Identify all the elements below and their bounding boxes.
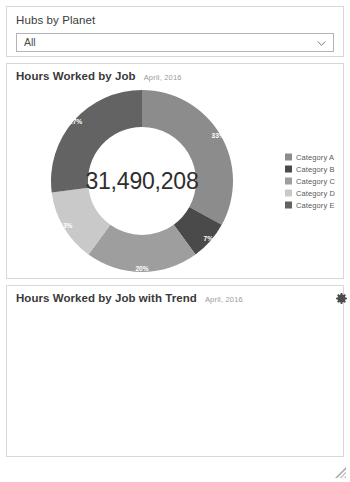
legend-swatch	[285, 166, 292, 173]
chevron-down-icon	[317, 39, 326, 48]
donut-chart[interactable]: 33%7%20%13%27%	[49, 88, 235, 274]
legend-swatch	[285, 190, 292, 197]
legend-label: Category A	[296, 153, 334, 162]
donut-slice-label: 27%	[69, 118, 82, 125]
donut-panel-header: Hours Worked by Job April, 2016	[7, 64, 343, 87]
trend-panel-header: Hours Worked by Job with Trend April, 20…	[7, 286, 343, 309]
donut-panel-subtitle: April, 2016	[144, 73, 182, 82]
donut-slice[interactable]	[142, 90, 233, 225]
gear-icon[interactable]	[334, 292, 349, 307]
legend-item[interactable]: Category E	[285, 201, 335, 210]
donut-slice-label: 33%	[212, 132, 225, 139]
select-selected-value: All	[24, 34, 36, 51]
donut-chart-area: 33%7%20%13%27% 31,490,208	[7, 87, 277, 275]
donut-panel-title: Hours Worked by Job	[16, 70, 136, 82]
hubs-by-planet-select[interactable]: All	[16, 33, 334, 52]
resize-grip-icon[interactable]	[334, 466, 347, 479]
filter-card: Hubs by Planet All	[6, 6, 344, 57]
legend-item[interactable]: Category D	[285, 189, 335, 198]
legend-swatch	[285, 178, 292, 185]
trend-chart-body	[7, 309, 343, 449]
legend-item[interactable]: Category B	[285, 165, 335, 174]
donut-chart-body: 33%7%20%13%27% 31,490,208 Category ACate…	[7, 87, 343, 275]
trend-panel-subtitle: April, 2016	[205, 295, 243, 304]
filter-label: Hubs by Planet	[16, 14, 334, 27]
donut-slice-label: 7%	[204, 235, 214, 242]
hours-worked-with-trend-panel: Hours Worked by Job with Trend April, 20…	[6, 285, 344, 457]
legend-label: Category D	[296, 189, 335, 198]
legend-item[interactable]: Category C	[285, 177, 335, 186]
donut-slice-label: 13%	[59, 222, 72, 229]
trend-panel-title: Hours Worked by Job with Trend	[16, 292, 197, 304]
legend-label: Category C	[296, 177, 335, 186]
legend-swatch	[285, 202, 292, 209]
dashboard-page: Hubs by Planet All Hours Worked by Job A…	[0, 0, 350, 482]
hours-worked-by-job-panel: Hours Worked by Job April, 2016 33%7%20%…	[6, 63, 344, 279]
legend-label: Category E	[296, 201, 335, 210]
donut-slice[interactable]	[51, 90, 142, 192]
donut-slice-label: 20%	[135, 265, 148, 272]
legend-item[interactable]: Category A	[285, 153, 335, 162]
chart-legend: Category ACategory BCategory CCategory D…	[285, 153, 335, 210]
legend-label: Category B	[296, 165, 335, 174]
legend-swatch	[285, 154, 292, 161]
